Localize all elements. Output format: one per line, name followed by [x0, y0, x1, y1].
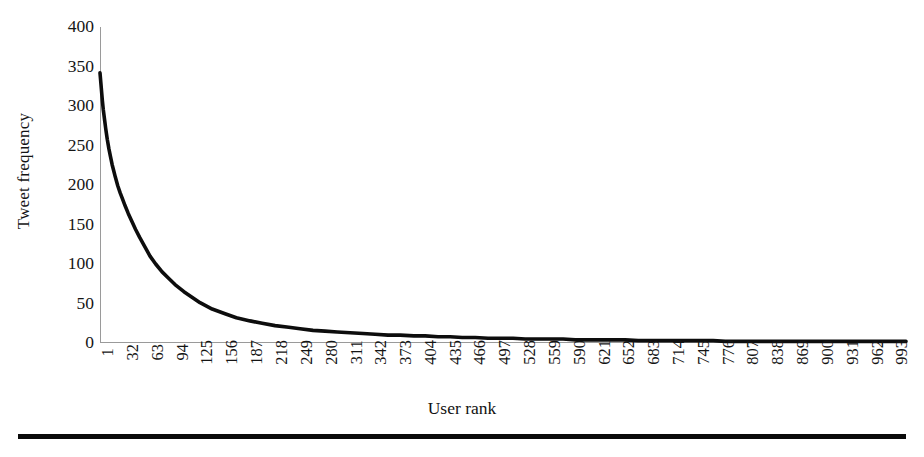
- x-axis-tick-label: 931: [846, 344, 860, 398]
- x-axis-tick-label: 466: [474, 344, 488, 398]
- x-axis-tick-label-text: 559: [547, 340, 564, 365]
- x-axis-tick-label-text: 1: [100, 348, 117, 356]
- x-axis-tick-label: 187: [250, 344, 264, 398]
- x-axis-tick-label-text: 156: [224, 340, 241, 365]
- x-axis-tick-label-text: 32: [125, 344, 142, 361]
- series-line-path: [100, 73, 906, 342]
- x-axis-tick-label: 94: [176, 344, 190, 398]
- x-axis-tick-label-text: 745: [696, 340, 713, 365]
- x-axis-tick-label: 900: [821, 344, 835, 398]
- data-series-tweet-frequency: [100, 27, 906, 343]
- y-axis-tick-label: 350: [44, 58, 94, 76]
- x-axis-tick-label: 497: [499, 344, 513, 398]
- x-axis-tick-label-text: 962: [870, 340, 887, 365]
- y-axis-tick-label: 300: [44, 97, 94, 115]
- x-axis-tick-label: 342: [375, 344, 389, 398]
- y-axis-tick-label: 250: [44, 137, 94, 155]
- x-axis-tick-label-text: 373: [398, 340, 415, 365]
- x-axis-tick-label-text: 900: [820, 340, 837, 365]
- figure-tweet-frequency-vs-user-rank: Tweet frequency 050100150200250300350400…: [0, 0, 924, 457]
- x-axis-tick-label-text: 621: [597, 340, 614, 365]
- x-axis-tick-label: 218: [275, 344, 289, 398]
- x-axis-tick-label: 652: [623, 344, 637, 398]
- x-axis-tick-label: 559: [548, 344, 562, 398]
- y-axis-tick-label: 0: [44, 334, 94, 352]
- x-axis-tick-label: 435: [449, 344, 463, 398]
- x-axis-tick-label: 528: [523, 344, 537, 398]
- x-axis-tick-label-text: 838: [770, 340, 787, 365]
- x-axis-tick-label: 590: [573, 344, 587, 398]
- x-axis-tick-label-text: 931: [845, 340, 862, 365]
- x-axis-title: User rank: [0, 398, 924, 419]
- x-axis-tick-label-text: 280: [324, 340, 341, 365]
- x-axis-title-text: User rank: [428, 398, 497, 419]
- x-axis-tick-label: 373: [399, 344, 413, 398]
- y-axis-title-text: Tweet frequency: [14, 113, 34, 230]
- y-axis-tick-label: 150: [44, 216, 94, 234]
- x-axis-tick-label-text: 342: [373, 340, 390, 365]
- x-axis-tick-label: 838: [772, 344, 786, 398]
- x-axis-tick-label: 807: [747, 344, 761, 398]
- x-axis-tick-label-text: 776: [721, 340, 738, 365]
- x-axis-tick-label: 962: [871, 344, 885, 398]
- y-axis-title: Tweet frequency: [0, 0, 48, 342]
- x-axis-tick-label-text: 249: [299, 340, 316, 365]
- x-axis-tick-label-text: 807: [746, 340, 763, 365]
- x-axis-tick-label: 683: [648, 344, 662, 398]
- x-axis-tick-label-text: 94: [175, 344, 192, 361]
- x-axis-tick-label-text: 590: [572, 340, 589, 365]
- x-axis-tick-label: 1: [102, 344, 116, 398]
- x-axis-tick-label: 311: [350, 344, 364, 398]
- y-axis-tick-labels: 050100150200250300350400: [44, 0, 94, 360]
- x-axis-tick-label-text: 218: [274, 340, 291, 365]
- x-axis-tick-label-text: 497: [497, 340, 514, 365]
- x-axis-tick-label-text: 63: [150, 344, 167, 361]
- x-axis-tick-label: 869: [796, 344, 810, 398]
- x-axis-tick-label: 404: [424, 344, 438, 398]
- x-axis-tick-labels: 1326394125156187218249280311342373404435…: [100, 344, 920, 400]
- x-axis-tick-label: 776: [722, 344, 736, 398]
- x-axis-tick-label-text: 187: [249, 340, 266, 365]
- x-axis-tick-label-text: 435: [448, 340, 465, 365]
- x-axis-tick-label: 63: [151, 344, 165, 398]
- x-axis-tick-label-text: 993: [894, 340, 911, 365]
- x-axis-tick-label: 156: [226, 344, 240, 398]
- y-axis-tick-label: 50: [44, 295, 94, 313]
- y-axis-tick-label: 100: [44, 255, 94, 273]
- x-axis-tick-label-text: 714: [671, 340, 688, 365]
- x-axis-tick-label: 32: [126, 344, 140, 398]
- x-axis-tick-label-text: 652: [621, 340, 638, 365]
- x-axis-tick-label-text: 404: [423, 340, 440, 365]
- x-axis-tick-label-text: 466: [473, 340, 490, 365]
- figure-bottom-rule: [18, 434, 906, 439]
- x-axis-tick-label-text: 683: [646, 340, 663, 365]
- x-axis-tick-label: 993: [896, 344, 910, 398]
- x-axis-tick-label-text: 311: [348, 340, 365, 364]
- x-axis-tick-label-text: 125: [200, 340, 217, 365]
- x-axis-tick-label: 125: [201, 344, 215, 398]
- y-axis-tick-label: 400: [44, 18, 94, 36]
- x-axis-tick-label-text: 528: [522, 340, 539, 365]
- x-axis-tick-label: 714: [672, 344, 686, 398]
- x-axis-tick-label-text: 869: [795, 340, 812, 365]
- x-axis-tick-label: 745: [697, 344, 711, 398]
- x-axis-tick-label: 249: [300, 344, 314, 398]
- y-axis-tick-label: 200: [44, 176, 94, 194]
- x-axis-tick-label: 280: [325, 344, 339, 398]
- x-axis-tick-label: 621: [598, 344, 612, 398]
- plot-area: [100, 27, 906, 343]
